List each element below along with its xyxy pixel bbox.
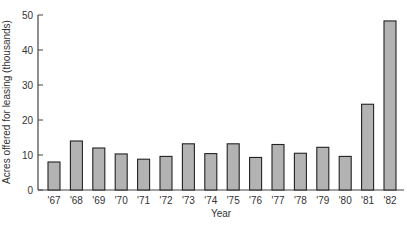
bar-chart: 01020304050 '67'68'69'70'71'72'73'74'75'… — [0, 0, 407, 227]
x-tick-label: '80 — [339, 195, 352, 206]
bar — [48, 162, 60, 190]
x-tick-label: '82 — [383, 195, 396, 206]
bar — [317, 147, 329, 190]
bar — [138, 159, 150, 190]
x-tick-label: '74 — [204, 195, 217, 206]
x-tick-label: '72 — [159, 195, 172, 206]
bar — [182, 144, 194, 190]
bar — [384, 21, 396, 190]
y-tick-label: 50 — [22, 10, 34, 21]
bar — [115, 154, 127, 190]
x-tick-label: '70 — [115, 195, 128, 206]
bars — [48, 21, 396, 190]
x-tick-label: '81 — [361, 195, 374, 206]
y-tick-label: 20 — [22, 115, 34, 126]
bar — [294, 153, 306, 190]
y-axis-title: Acres offered for leasing (thousands) — [1, 20, 12, 184]
bar — [227, 144, 239, 190]
x-tick-label: '76 — [249, 195, 262, 206]
bar — [250, 157, 262, 190]
bar — [70, 141, 82, 190]
x-tick-label: '68 — [70, 195, 83, 206]
x-tick-label: '71 — [137, 195, 150, 206]
bar — [272, 145, 284, 191]
x-tick-label: '75 — [227, 195, 240, 206]
bar — [160, 156, 172, 190]
y-tick-label: 40 — [22, 45, 34, 56]
x-tick-label: '73 — [182, 195, 195, 206]
x-axis-title: Year — [211, 208, 232, 219]
bar — [339, 156, 351, 190]
y-tick-label: 30 — [22, 80, 34, 91]
x-tick-label: '67 — [47, 195, 60, 206]
x-axis: '67'68'69'70'71'72'73'74'75'76'77'78'79'… — [38, 190, 404, 206]
x-tick-label: '79 — [316, 195, 329, 206]
y-tick-label: 10 — [22, 150, 34, 161]
bar — [362, 104, 374, 190]
y-axis: 01020304050 — [22, 10, 43, 196]
y-tick-label: 0 — [27, 185, 33, 196]
x-tick-label: '77 — [271, 195, 284, 206]
bar — [205, 154, 217, 190]
x-tick-label: '78 — [294, 195, 307, 206]
bar — [93, 148, 105, 190]
x-tick-label: '69 — [92, 195, 105, 206]
